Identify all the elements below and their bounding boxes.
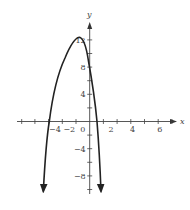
x-tick-label: −2 — [63, 125, 75, 134]
x-axis-tick-labels: −4−20246 — [49, 125, 162, 134]
x-tick-label: 0 — [80, 125, 85, 134]
y-tick-label: −8 — [74, 172, 86, 181]
y-axis-arrow-icon — [87, 22, 92, 29]
parabola-curve — [43, 37, 101, 191]
y-tick-label: −4 — [74, 145, 86, 154]
parabola-graph: −4−20246 1284−4−8 x y — [0, 0, 190, 210]
x-tick-label: 4 — [130, 125, 135, 134]
x-tick-label: 6 — [157, 125, 162, 134]
x-tick-label: 2 — [109, 125, 114, 134]
y-axis-tick-labels: 1284−4−8 — [74, 36, 86, 181]
x-axis-label: x — [180, 117, 185, 126]
y-tick-label: 4 — [81, 90, 86, 99]
x-axis-arrow-icon — [170, 119, 177, 124]
x-tick-label: −4 — [49, 125, 61, 134]
y-axis-label: y — [86, 10, 92, 19]
y-tick-label: 8 — [81, 63, 86, 72]
